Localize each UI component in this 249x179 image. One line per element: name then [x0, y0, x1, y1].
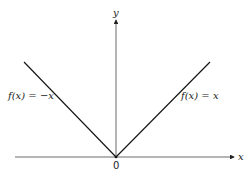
- right-branch-line: [116, 62, 210, 157]
- right-curve-label: f(x) = x: [180, 90, 219, 101]
- left-branch-line: [24, 62, 116, 157]
- x-axis-label: x: [238, 151, 244, 162]
- absolute-value-diagram: y x 0 f(x) = −x f(x) = x: [0, 0, 249, 179]
- y-axis-label: y: [112, 7, 119, 18]
- origin-label: 0: [113, 160, 119, 171]
- left-curve-label: f(x) = −x: [7, 90, 54, 101]
- origin-point: [115, 156, 118, 159]
